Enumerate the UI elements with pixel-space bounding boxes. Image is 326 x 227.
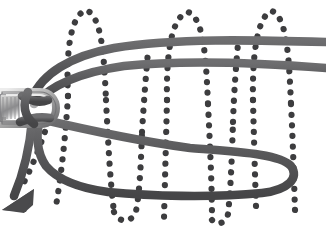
- rope-diagram: [0, 0, 326, 227]
- figure-root: Rope threaded through metal ring over do…: [0, 0, 326, 227]
